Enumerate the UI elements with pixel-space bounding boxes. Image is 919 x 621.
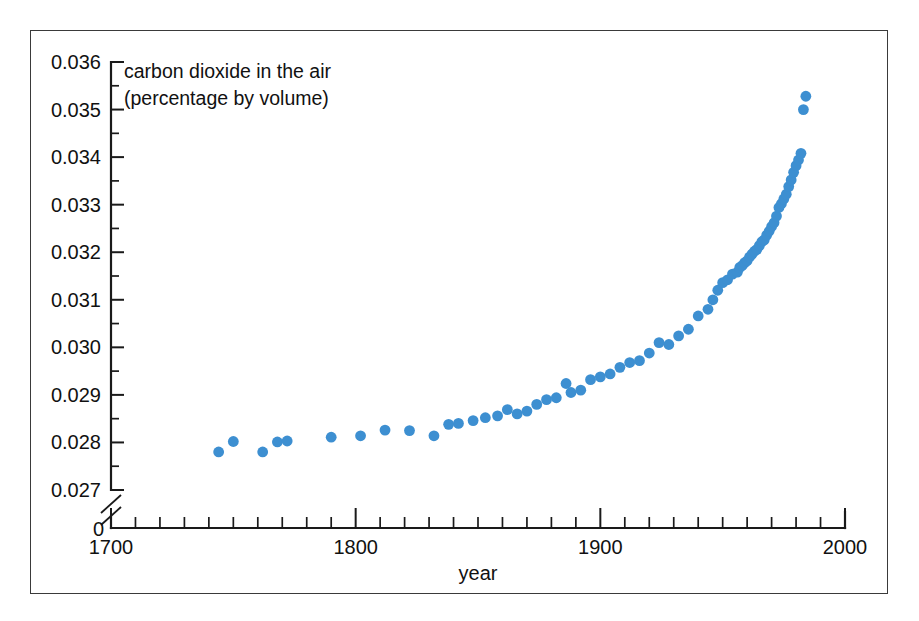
y-tick-label: 0.036 [51,51,101,73]
data-point [429,430,440,441]
data-point [453,418,464,429]
data-point [800,91,811,102]
data-point [566,387,577,398]
data-point [595,371,606,382]
data-point [443,419,454,430]
data-point [634,355,645,366]
data-point [703,304,714,315]
data-point [673,331,684,342]
data-point [257,447,268,458]
co2-scatter-chart: 0.0270.0280.0290.0300.0310.0320.0330.034… [0,0,919,621]
chart-text-group: carbon dioxide in the air (percentage by… [93,60,498,584]
data-point [512,409,523,420]
data-point [213,447,224,458]
y-tick-label: 0.029 [51,384,101,406]
y-tick-label: 0.033 [51,194,101,216]
data-point [575,385,586,396]
data-point [683,324,694,335]
data-point [468,415,479,426]
data-point [798,104,809,115]
axes-group [101,62,845,528]
y-tick-label: 0.032 [51,241,101,263]
x-tick-label: 1800 [333,536,378,558]
y-tick-label: 0.035 [51,99,101,121]
data-point [585,374,596,385]
x-tick-label: 1900 [578,536,623,558]
data-point [693,311,704,322]
data-point [272,437,283,448]
y-tick-label: 0.034 [51,146,101,168]
y-axis-zero-label: 0 [93,518,104,540]
data-point [551,392,562,403]
y-tick-label: 0.031 [51,289,101,311]
y-tick-label: 0.030 [51,336,101,358]
chart-root: 0.0270.0280.0290.0300.0310.0320.0330.034… [0,0,919,621]
data-point [404,425,415,436]
data-point [502,404,513,415]
data-point [492,410,503,421]
data-point [644,348,655,359]
data-point [326,432,337,443]
data-point [796,148,807,159]
data-point [707,294,718,305]
data-point [531,399,542,410]
data-point [605,369,616,380]
y-tick-label: 0.027 [51,479,101,501]
data-point [228,436,239,447]
x-tick-label: 2000 [823,536,868,558]
data-point [615,362,626,373]
data-point [654,337,665,348]
ticks-group [111,62,845,528]
data-point [380,425,391,436]
data-point [282,436,293,447]
chart-annotation-line1: carbon dioxide in the air [124,60,332,82]
data-point [355,430,366,441]
data-point [663,339,674,350]
data-point [480,412,491,423]
data-points-group [213,91,811,458]
data-point [522,406,533,417]
x-axis-title: year [459,562,498,584]
chart-annotation-line2: (percentage by volume) [124,87,329,109]
data-point [624,357,635,368]
data-point [541,394,552,405]
tick-labels-group: 0.0270.0280.0290.0300.0310.0320.0330.034… [51,51,867,558]
y-tick-label: 0.028 [51,431,101,453]
